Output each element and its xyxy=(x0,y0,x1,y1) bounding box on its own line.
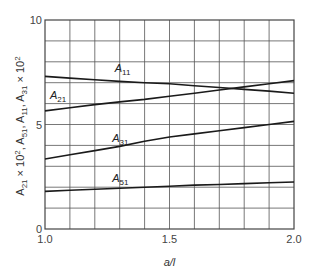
x-tick-label: 2.0 xyxy=(286,233,301,245)
x-tick-label: 1.5 xyxy=(162,233,177,245)
series-label-a21: A21 xyxy=(49,89,67,104)
y-tick-label: 5 xyxy=(36,119,42,131)
y-tick-label: 10 xyxy=(30,14,42,26)
grid-lines xyxy=(45,20,294,229)
y-axis-title: A21 × 102, A51, A11, A31 × 102 xyxy=(13,56,29,196)
y-tick-label: 0 xyxy=(36,223,42,235)
series-label-a11: A11 xyxy=(114,62,131,77)
x-axis-title: a/l xyxy=(164,256,176,268)
axis-ticks: 1.01.52.00510 xyxy=(30,14,302,245)
chart: A11A21A31A51 1.01.52.00510 a/l A21 × 102… xyxy=(0,0,321,272)
series-label-a51: A51 xyxy=(111,172,129,187)
